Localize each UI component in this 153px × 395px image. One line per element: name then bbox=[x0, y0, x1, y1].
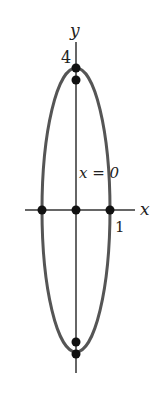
point-right bbox=[106, 206, 115, 215]
y-tick-label-4: 4 bbox=[61, 48, 71, 67]
x-tick-label-1: 1 bbox=[115, 218, 125, 236]
annotation-x-equals-0: x = 0 bbox=[79, 164, 120, 182]
point-origin bbox=[72, 206, 81, 215]
point-left bbox=[38, 206, 47, 215]
y-axis-label: y bbox=[69, 20, 80, 40]
point-bottom-inner bbox=[72, 338, 81, 347]
x-axis-label: x bbox=[140, 199, 150, 219]
point-bottom bbox=[72, 350, 81, 359]
point-top-inner bbox=[72, 76, 81, 85]
point-top bbox=[72, 64, 81, 73]
diagram-canvas: y 4 x = 0 x 1 bbox=[0, 0, 153, 395]
